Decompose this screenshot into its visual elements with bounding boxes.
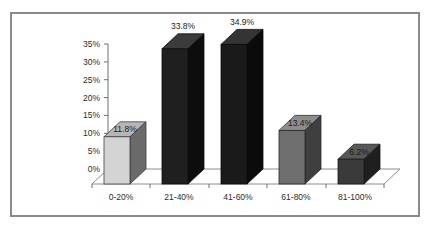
bar-chart-svg: 35% 30% 25% 20% 15% 10% 5% 0% 0-20% 21-4… xyxy=(12,14,422,219)
floor-right-edge xyxy=(384,169,400,184)
bar-front-face xyxy=(221,44,247,184)
x-axis-label-81-100: 81-100% xyxy=(338,192,372,202)
bar-value-label-41-60: 34.9% xyxy=(230,17,255,27)
bar-front-face xyxy=(338,159,364,184)
y-axis-label-5: 5% xyxy=(88,146,101,156)
y-axis-label-0: 0% xyxy=(88,164,101,174)
bar-0-20[interactable]: 11.8% xyxy=(104,122,146,184)
y-axis-label-20: 20% xyxy=(83,93,100,103)
bar-front-face xyxy=(162,49,188,184)
y-axis-label-10: 10% xyxy=(83,128,100,138)
bar-front-face xyxy=(279,130,305,184)
x-axis: 0-20% 21-40% 41-60% 61-80% 81-100% xyxy=(92,184,384,202)
bar-21-40[interactable]: 33.8% xyxy=(162,21,204,184)
y-axis-label-35: 35% xyxy=(83,39,100,49)
bar-front-face xyxy=(104,137,130,184)
bar-value-label-0-20: 11.8% xyxy=(113,124,137,134)
bar-value-label-81-100: 6.2% xyxy=(349,147,369,157)
bar-side-face xyxy=(188,34,204,184)
bar-value-label-21-40: 33.8% xyxy=(171,21,196,31)
y-axis-label-30: 30% xyxy=(83,57,100,67)
bar-value-label-61-80: 13.4% xyxy=(288,118,313,128)
y-axis-label-15: 15% xyxy=(83,110,100,120)
bar-61-80[interactable]: 13.4% xyxy=(279,115,321,184)
bar-41-60[interactable]: 34.9% xyxy=(221,17,263,184)
x-axis-label-41-60: 41-60% xyxy=(223,192,253,202)
y-axis-label-25: 25% xyxy=(83,75,100,85)
bar-chart-plot-area: 35% 30% 25% 20% 15% 10% 5% 0% 0-20% 21-4… xyxy=(12,14,422,219)
bar-81-100[interactable]: 6.2% xyxy=(338,144,380,184)
x-axis-label-21-40: 21-40% xyxy=(164,192,194,202)
chart-frame: 35% 30% 25% 20% 15% 10% 5% 0% 0-20% 21-4… xyxy=(10,12,420,217)
bar-side-face xyxy=(247,29,263,184)
x-axis-label-61-80: 61-80% xyxy=(281,192,311,202)
x-axis-label-0-20: 0-20% xyxy=(109,192,134,202)
